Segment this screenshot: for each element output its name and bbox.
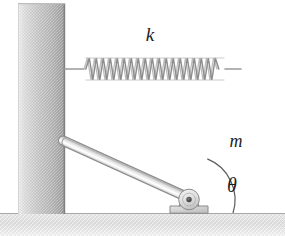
rod-highlight xyxy=(63,142,187,198)
wall-support xyxy=(18,3,65,214)
wall-texture xyxy=(18,3,65,214)
label-spring-constant-k: k xyxy=(146,24,155,45)
label-angle-theta: θ xyxy=(227,174,237,196)
pivot-pin xyxy=(186,197,191,202)
spring-assembly xyxy=(64,58,241,80)
rod-body-group xyxy=(57,134,194,203)
physics-diagram-spring-rod-pivot: k m θ xyxy=(0,0,285,236)
ground-texture xyxy=(0,213,285,236)
rod-shadow xyxy=(65,138,189,194)
label-rod-mass-m: m xyxy=(230,131,243,151)
rod-mass xyxy=(57,134,194,203)
ground-surface xyxy=(0,213,285,236)
diagram-canvas: k m θ xyxy=(0,0,285,236)
